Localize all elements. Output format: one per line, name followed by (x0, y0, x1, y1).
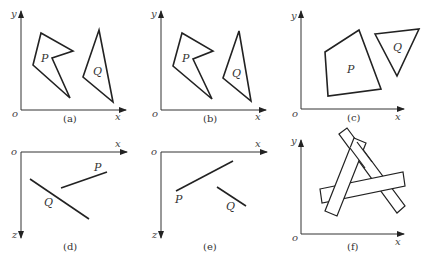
caption-f: (f) (347, 241, 359, 252)
label-p: P (93, 161, 102, 174)
panel-f: y o x (f) (290, 128, 405, 252)
x-axis-label: x (395, 111, 401, 122)
caption-d: (d) (63, 241, 77, 252)
caption-c: (c) (347, 112, 361, 123)
origin-label: o (152, 108, 158, 119)
panel-b: y o x P Q (b) (150, 8, 266, 124)
y-axis-label: y (150, 8, 157, 19)
label-q: Q (44, 196, 53, 209)
x-axis-label: x (115, 138, 121, 149)
label-p: P (181, 52, 190, 65)
caption-a: (a) (63, 113, 77, 124)
x-axis-label: x (255, 111, 261, 122)
label-q: Q (226, 200, 235, 213)
panel-d: o x z P Q (d) (11, 138, 127, 252)
origin-label: o (12, 108, 18, 119)
panel-c: y o x P Q (c) (290, 10, 419, 123)
label-q: Q (93, 65, 102, 78)
caption-e: (e) (203, 241, 217, 252)
y-axis-label: y (10, 8, 17, 19)
segment-p (61, 172, 107, 188)
polygon-q (223, 31, 251, 101)
caption-b: (b) (203, 113, 217, 124)
z-axis-label: z (151, 229, 158, 240)
y-axis-label: y (290, 10, 297, 21)
origin-label: o (11, 146, 17, 157)
label-q: Q (393, 41, 402, 54)
x-axis-label: x (115, 111, 121, 122)
panel-a: y o x P Q (a) (10, 8, 126, 124)
label-p: P (346, 63, 355, 76)
origin-label: o (151, 146, 157, 157)
polygon-p (33, 33, 73, 98)
label-p: P (40, 52, 49, 65)
z-axis-label: z (11, 229, 18, 240)
panel-e: o x z P Q (e) (151, 138, 267, 252)
y-axis-label: y (290, 135, 297, 146)
label-p: P (174, 193, 183, 206)
segment-p (176, 161, 233, 191)
segment-q (30, 179, 89, 219)
polygon-p (173, 33, 213, 99)
label-q: Q (232, 67, 241, 80)
origin-label: o (292, 232, 298, 243)
figure-canvas: y o x P Q (a) y o x P Q (b) y o x P Q (c… (0, 0, 428, 258)
x-axis-label: x (395, 236, 401, 247)
origin-label: o (292, 108, 298, 119)
x-axis-label: x (255, 138, 261, 149)
